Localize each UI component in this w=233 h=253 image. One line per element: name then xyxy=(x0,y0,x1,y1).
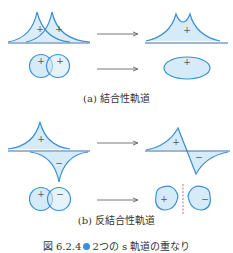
sign-plus: + xyxy=(56,56,64,66)
panel-b-orbital-before: + − xyxy=(30,188,71,211)
panel-a-wave-before: + + xyxy=(8,12,90,43)
panel-b-orbital-after: + − xyxy=(156,184,211,214)
figure-caption: 図 6.2.42つの s 軌道の重なり xyxy=(0,238,233,253)
sign-plus: + xyxy=(183,57,191,67)
sign-plus: + xyxy=(36,24,44,34)
arrow-icon xyxy=(97,67,138,71)
figure-number: 図 6.2.4 xyxy=(43,241,82,252)
sign-plus: + xyxy=(37,134,45,144)
sign-minus: − xyxy=(201,194,209,204)
panel-b-wave-after: + − xyxy=(145,128,230,174)
arrow-icon xyxy=(97,198,138,202)
sign-minus: − xyxy=(56,189,64,199)
panel-a-orbital-after: + xyxy=(164,57,210,79)
sign-plus: + xyxy=(37,56,45,66)
arrow-icon xyxy=(97,141,138,145)
arrow-icon xyxy=(97,32,138,36)
panel-b-caption: (b) 反結合性軌道 xyxy=(0,212,233,227)
sign-plus: + xyxy=(183,25,191,35)
sign-plus: + xyxy=(172,137,180,147)
panel-a-wave-after: + xyxy=(145,14,228,43)
sign-minus: − xyxy=(195,152,203,162)
sign-plus: + xyxy=(55,24,63,34)
bullet-icon xyxy=(83,243,90,250)
panel-a-orbital-before: + + xyxy=(30,55,70,78)
panel-a-caption: (a) 結合性軌道 xyxy=(0,90,233,105)
sign-plus: + xyxy=(37,189,45,199)
figure-title: 2つの s 軌道の重なり xyxy=(92,241,190,252)
sign-plus: + xyxy=(160,194,168,204)
sign-minus: − xyxy=(55,158,63,168)
panel-b-wave-before: + − xyxy=(8,122,90,182)
